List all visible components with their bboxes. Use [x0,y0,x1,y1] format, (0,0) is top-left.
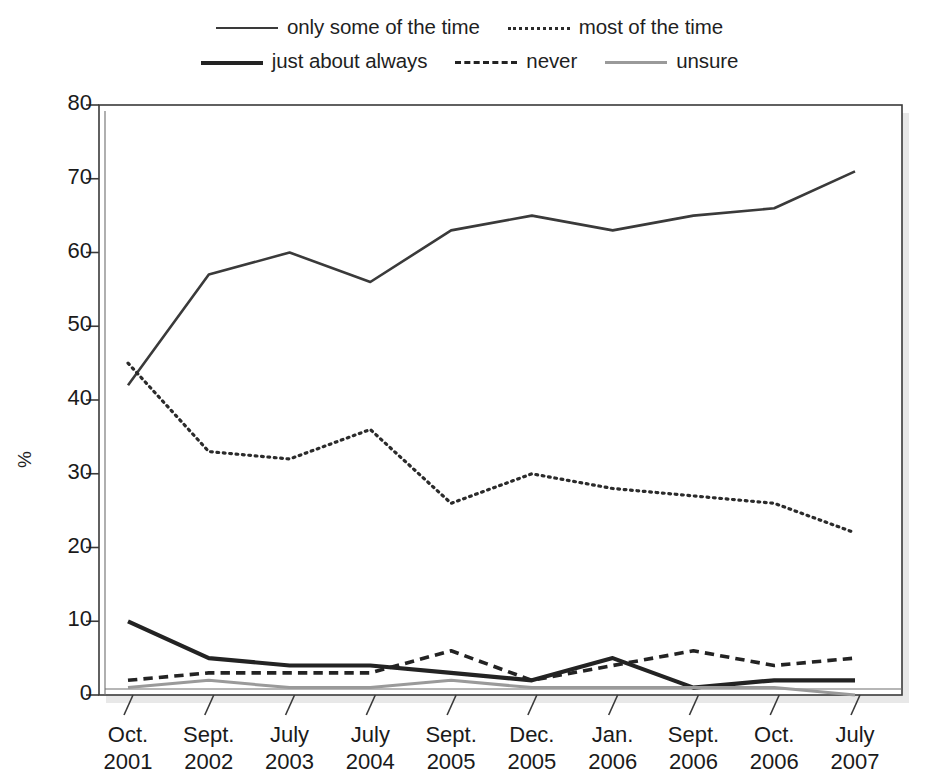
legend-label: just about always [272,49,428,73]
chart-figure: only some of the time most of the time j… [0,0,939,783]
legend-item-just-about-always: just about always [201,49,428,73]
legend-label: most of the time [579,15,723,39]
legend-row-2: just about always never unsure [0,44,939,78]
x-axis-ticks: Oct.2001Sept.2002July2003July2004Sept.20… [0,88,939,783]
legend-label: only some of the time [287,15,480,39]
legend-item-most-of-the-time: most of the time [508,15,723,39]
legend-line-dashed-icon [455,54,517,68]
x-axis-tick-line: July [800,721,910,748]
legend-row-1: only some of the time most of the time [0,10,939,44]
legend-line-solid-thick-icon [201,54,263,68]
legend-line-solid-thin-icon [216,20,278,34]
x-axis-tick-line: 2007 [800,748,910,775]
legend-line-dotted-icon [508,20,570,34]
legend-item-never: never [455,49,577,73]
legend-label: unsure [676,49,738,73]
chart-legend: only some of the time most of the time j… [0,10,939,88]
legend-item-unsure: unsure [605,49,738,73]
plot-area: % 01020304050607080 Oct.2001Sept.2002Jul… [0,88,939,783]
legend-label: never [526,49,577,73]
legend-item-only-some-of-the-time: only some of the time [216,15,480,39]
legend-line-gray-icon [605,54,667,68]
x-axis-tick-label: July2007 [800,721,910,775]
